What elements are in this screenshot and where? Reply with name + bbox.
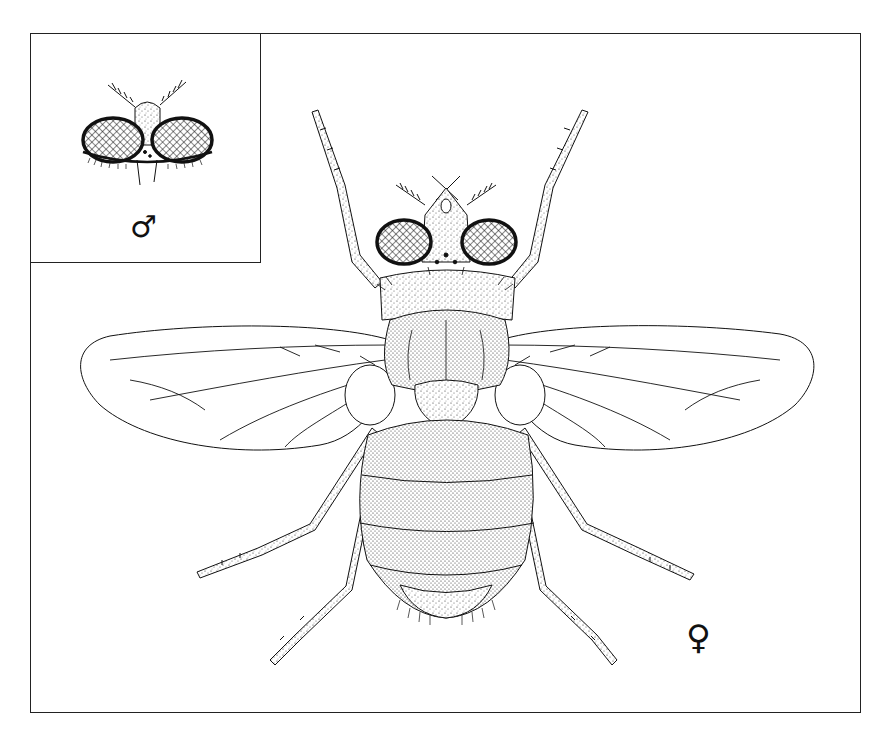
- thorax: [377, 267, 515, 430]
- male-head: [83, 80, 212, 185]
- female-head: [377, 176, 516, 264]
- male-symbol: ♂: [130, 212, 157, 242]
- female-symbol: ♀: [686, 620, 711, 654]
- abdomen: [360, 420, 534, 625]
- fly-illustration: [0, 0, 888, 738]
